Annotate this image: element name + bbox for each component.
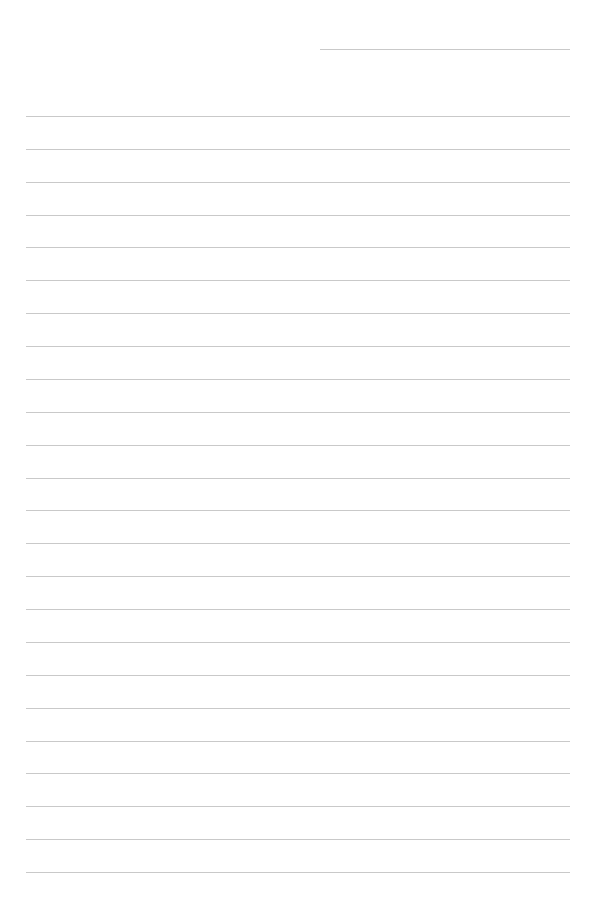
ruled-line bbox=[26, 872, 570, 873]
ruled-line bbox=[26, 741, 570, 742]
ruled-line bbox=[26, 215, 570, 216]
ruled-line bbox=[26, 642, 570, 643]
ruled-line bbox=[26, 149, 570, 150]
ruled-line bbox=[26, 510, 570, 511]
ruled-line bbox=[26, 576, 570, 577]
ruled-line bbox=[26, 609, 570, 610]
ruled-line bbox=[26, 346, 570, 347]
ruled-line bbox=[26, 773, 570, 774]
lined-paper-page bbox=[0, 0, 598, 910]
ruled-line bbox=[26, 379, 570, 380]
ruled-line bbox=[26, 543, 570, 544]
ruled-line bbox=[26, 839, 570, 840]
ruled-line bbox=[26, 708, 570, 709]
ruled-line bbox=[26, 412, 570, 413]
ruled-line bbox=[26, 675, 570, 676]
ruled-line bbox=[26, 478, 570, 479]
ruled-line bbox=[26, 445, 570, 446]
ruled-line bbox=[26, 280, 570, 281]
ruled-line bbox=[26, 116, 570, 117]
ruled-line bbox=[26, 182, 570, 183]
ruled-line bbox=[26, 806, 570, 807]
ruled-line bbox=[26, 247, 570, 248]
ruled-line bbox=[26, 313, 570, 314]
date-header-line bbox=[320, 49, 570, 50]
